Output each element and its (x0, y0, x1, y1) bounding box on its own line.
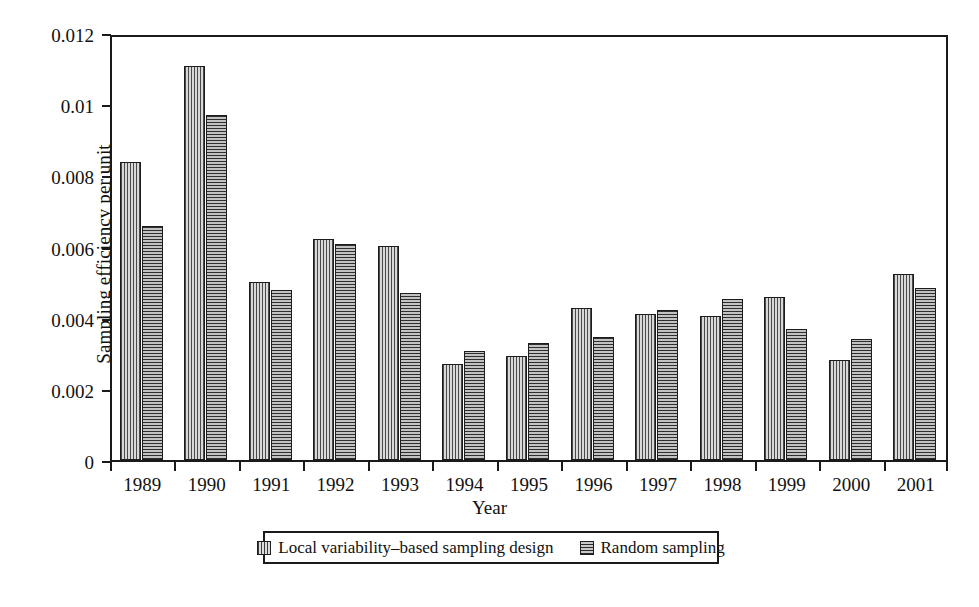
bar-1992-series-2 (335, 244, 356, 460)
x-axis-tick-mark (755, 462, 757, 471)
bar-1989-series-2 (142, 226, 163, 460)
bar-1990-series-1 (184, 66, 205, 460)
y-axis-tick-mark (102, 319, 111, 321)
x-axis-tick-mark (626, 462, 628, 471)
legend-entry-series-1: Local variability–based sampling design (257, 538, 553, 558)
chart-legend: Local variability–based sampling design … (263, 531, 719, 564)
x-axis-tick-mark (239, 462, 241, 471)
bar-1992-series-1 (313, 239, 334, 460)
x-axis-tick-mark (432, 462, 434, 471)
y-axis-tick-label: 0.008 (20, 168, 94, 187)
bar-1996-series-2 (593, 337, 614, 460)
x-axis-title: Year (0, 497, 979, 519)
bar-1997-series-2 (657, 310, 678, 460)
plot-area (110, 35, 948, 462)
x-axis-tick-mark (946, 462, 948, 471)
bar-group-1995 (499, 37, 563, 460)
bar-1990-series-2 (206, 115, 227, 460)
bar-1999-series-1 (764, 297, 785, 460)
bar-1989-series-1 (120, 162, 141, 460)
bar-group-1991 (241, 37, 305, 460)
x-axis-tick-mark (884, 462, 886, 471)
bar-1998-series-2 (722, 299, 743, 460)
legend-swatch-horizontal-hatch-icon (580, 541, 594, 555)
bar-group-2000 (821, 37, 885, 460)
y-axis-tick-mark (102, 248, 111, 250)
legend-label-series-2: Random sampling (601, 538, 725, 558)
bar-2000-series-1 (829, 360, 850, 460)
bar-group-1990 (176, 37, 240, 460)
y-axis-tick-mark (102, 34, 111, 36)
bar-1999-series-2 (786, 329, 807, 460)
bar-group-1998 (692, 37, 756, 460)
bar-1995-series-2 (528, 343, 549, 460)
x-axis-tick-mark (819, 462, 821, 471)
y-axis-tick-mark (102, 176, 111, 178)
bar-1993-series-1 (378, 246, 399, 460)
bar-group-1992 (305, 37, 369, 460)
bar-2001-series-2 (915, 288, 936, 460)
bar-1994-series-2 (464, 351, 485, 460)
y-axis-tick-label: 0.006 (20, 239, 94, 258)
y-axis-tick-mark (102, 461, 111, 463)
bar-1991-series-1 (249, 282, 270, 460)
bar-2001-series-1 (893, 274, 914, 460)
y-axis-tick-label: 0.012 (20, 26, 94, 45)
y-axis-tick-label: 0.01 (20, 97, 94, 116)
y-axis-tick-label: 0.004 (20, 310, 94, 329)
x-axis-tick-mark (690, 462, 692, 471)
bar-1996-series-1 (571, 308, 592, 460)
y-axis-tick-label: 0 (20, 453, 94, 472)
bar-group-1999 (757, 37, 821, 460)
bar-1994-series-1 (442, 364, 463, 460)
x-axis-tick-mark (303, 462, 305, 471)
bars-layer (112, 37, 946, 460)
bar-group-1994 (434, 37, 498, 460)
x-axis-tick-mark (174, 462, 176, 471)
bar-1998-series-1 (700, 316, 721, 460)
bar-1993-series-2 (400, 293, 421, 460)
bar-group-2001 (886, 37, 950, 460)
bar-chart-figure: Sampling efficiency per unit 00.0020.004… (0, 0, 979, 607)
legend-label-series-1: Local variability–based sampling design (278, 538, 553, 558)
bar-2000-series-2 (851, 339, 872, 460)
x-axis-tick-mark (368, 462, 370, 471)
y-axis-tick-label: 0.002 (20, 381, 94, 400)
x-axis-tick-mark (497, 462, 499, 471)
bar-group-1989 (112, 37, 176, 460)
legend-entry-series-2: Random sampling (580, 538, 725, 558)
bar-group-1993 (370, 37, 434, 460)
y-axis-tick-mark (102, 390, 111, 392)
bar-1997-series-1 (635, 314, 656, 460)
bar-group-1996 (563, 37, 627, 460)
bar-group-1997 (628, 37, 692, 460)
x-axis-tick-mark (110, 462, 112, 471)
y-axis-tick-mark (102, 105, 111, 107)
bar-1991-series-2 (271, 290, 292, 460)
x-axis-tick-label-2001: 2001 (876, 474, 956, 496)
x-axis-tick-mark (561, 462, 563, 471)
legend-swatch-vertical-hatch-icon (257, 541, 271, 555)
bar-1995-series-1 (506, 356, 527, 460)
